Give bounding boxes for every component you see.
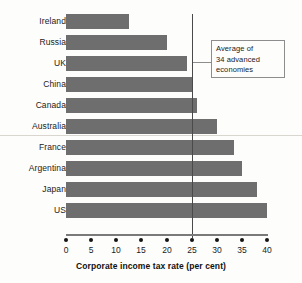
bar-uk [66,56,187,71]
x-tick-dot [165,238,169,242]
bar-china [66,77,192,92]
x-tick-dot [139,238,143,242]
bar-label: Argentina [0,161,66,176]
bar-label: Australia [0,119,66,134]
annotation-line-2: 34 advanced [216,55,280,66]
annotation-line-3: economies [216,65,280,76]
bar-label: UK [0,56,66,71]
x-tick-label: 30 [205,245,229,255]
bar-label: Canada [0,98,66,113]
x-tick-label: 25 [180,245,204,255]
bar-label: China [0,77,66,92]
x-tick-dot [265,238,269,242]
annotation-line-1: Average of [216,44,280,55]
bar-label: Japan [0,182,66,197]
bar-ireland [66,14,129,29]
x-tick-dot [114,238,118,242]
x-tick-dot [190,238,194,242]
table-row: Argentina [0,161,302,182]
x-tick-label: 20 [155,245,179,255]
x-axis-title: Corporate income tax rate (per cent) [0,261,302,271]
bar-canada [66,98,197,113]
table-row: Ireland [0,14,302,35]
bar-label: France [0,140,66,155]
annotation-box: Average of 34 advanced economies [211,40,285,78]
bar-france [66,140,234,155]
x-tick-label: 10 [104,245,128,255]
plot-area: Ireland Russia UK China Canada Australia… [0,0,302,232]
bar-argentina [66,161,242,176]
x-tick-label: 35 [230,245,254,255]
x-tick-label: 0 [54,245,78,255]
bar-us [66,203,267,218]
bar-japan [66,182,257,197]
x-tick-dot [89,238,93,242]
table-row: Australia [0,119,302,140]
average-reference-line [192,14,193,238]
table-row: France [0,140,302,161]
x-tick-dot [215,238,219,242]
bar-australia [66,119,217,134]
annotation-leader-line [193,62,211,63]
x-tick-label: 15 [129,245,153,255]
x-tick-label: 40 [255,245,279,255]
table-row: China [0,77,302,98]
x-tick-dot [240,238,244,242]
table-row: US [0,203,302,224]
x-tick-dot [64,238,68,242]
bar-label: Ireland [0,14,66,29]
bar-russia [66,35,167,50]
table-row: Canada [0,98,302,119]
x-tick-label: 5 [79,245,103,255]
bar-chart: Ireland Russia UK China Canada Australia… [0,0,302,283]
bar-label: Russia [0,35,66,50]
x-axis-line [66,234,268,236]
bar-label: US [0,203,66,218]
table-row: Japan [0,182,302,203]
